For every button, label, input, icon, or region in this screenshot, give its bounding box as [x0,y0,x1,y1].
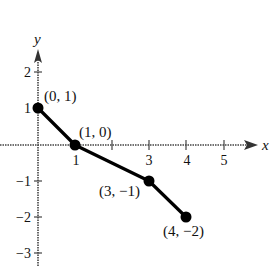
y-axis-label: y [32,31,41,47]
point-4-neg2 [181,212,192,223]
data-line [38,108,186,217]
y-tick-labels: 2 1 −1 −2 −3 [16,65,31,261]
axes: x y [0,31,269,266]
x-tick-3: 3 [146,153,153,168]
point-label-1-0: (1, 0) [79,124,112,141]
y-tick-neg3: −3 [16,246,31,261]
x-tick-4: 4 [184,153,191,168]
x-ticks [75,140,224,150]
y-tick-neg1: −1 [16,174,31,189]
point-label-3-neg1: (3, −1) [99,183,140,200]
point-label-4-neg2: (4, −2) [163,223,204,240]
point-label-0-1: (0, 1) [44,88,77,105]
point-labels: (0, 1) (1, 0) (3, −1) (4, −2) [44,88,204,240]
x-tick-5: 5 [221,153,228,168]
y-tick-neg2: −2 [16,210,31,225]
point-3-neg1 [144,176,155,187]
y-tick-1: 1 [24,101,31,116]
point-0-1 [33,103,44,114]
y-tick-2: 2 [24,65,31,80]
graph: x y 1 3 4 5 2 1 −1 −2 −3 (0 [0,0,277,266]
x-tick-1: 1 [73,153,80,168]
point-1-0 [70,140,81,151]
x-axis-label: x [261,137,269,153]
